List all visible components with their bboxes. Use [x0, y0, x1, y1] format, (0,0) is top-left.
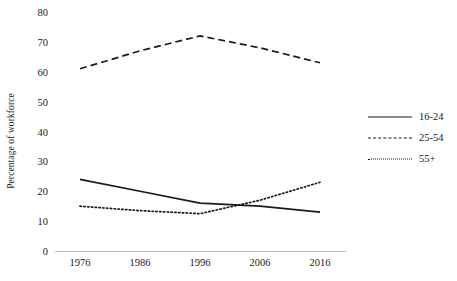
y-tick-0: 0	[43, 246, 48, 257]
legend-item-16-24: 16-24	[368, 108, 456, 126]
y-axis-tick-labels: 01020304050607080	[22, 0, 52, 281]
y-tick-60: 60	[38, 66, 49, 77]
x-axis-line	[55, 251, 346, 252]
legend-item-55-plus: 55+	[368, 150, 456, 168]
x-tick-1996: 1996	[190, 256, 211, 269]
legend-swatch-dashed-icon	[368, 133, 412, 143]
y-axis-title-label: Percentage of workforce	[6, 93, 16, 189]
y-axis-title: Percentage of workforce	[0, 0, 22, 281]
series-line-16-24	[80, 179, 320, 212]
y-tick-50: 50	[38, 96, 49, 107]
x-tick-2006: 2006	[250, 256, 271, 269]
series-lines-svg	[55, 8, 345, 253]
plot-area	[55, 8, 345, 253]
legend-swatch-dotted-icon	[368, 154, 412, 164]
legend-swatch-solid-icon	[368, 112, 412, 122]
legend-label-16-24: 16-24	[412, 111, 444, 123]
y-tick-30: 30	[38, 156, 49, 167]
y-tick-40: 40	[38, 126, 49, 137]
x-tick-2016: 2016	[310, 256, 331, 269]
y-tick-70: 70	[38, 36, 49, 47]
y-tick-80: 80	[38, 7, 49, 18]
legend-label-25-54: 25-54	[412, 132, 444, 144]
x-axis-tick-labels: 19761986199620062016	[55, 256, 346, 276]
x-tick-1976: 1976	[70, 256, 91, 269]
y-tick-20: 20	[38, 186, 49, 197]
x-tick-1986: 1986	[130, 256, 151, 269]
legend-item-25-54: 25-54	[368, 129, 456, 147]
legend-label-55-plus: 55+	[412, 153, 435, 165]
y-tick-10: 10	[38, 216, 49, 227]
series-line-25-54	[80, 36, 320, 69]
line-chart-figure: Percentage of workforce 0102030405060708…	[0, 0, 457, 281]
chart-legend: 16-24 25-54 55+	[368, 108, 456, 170]
